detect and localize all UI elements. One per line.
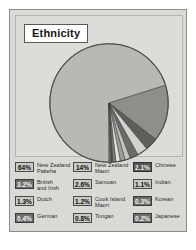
legend-percent-swatch: 0.2% bbox=[133, 213, 152, 223]
legend-item: 3.2%British and Irish bbox=[15, 179, 73, 195]
pie-slice-group bbox=[50, 44, 168, 162]
legend-label: Tongan bbox=[95, 213, 114, 219]
legend-percent-swatch: 1.1% bbox=[133, 179, 152, 189]
legend-label: British and Irish bbox=[37, 179, 59, 191]
legend-label: Korean bbox=[155, 196, 173, 202]
pie-chart bbox=[43, 40, 175, 166]
legend-item: 1.3%Dutch bbox=[15, 196, 73, 212]
pie-chart-svg bbox=[43, 40, 175, 166]
legend-item: 0.3%Korean bbox=[133, 196, 183, 212]
legend-percent-swatch: 0.8% bbox=[73, 213, 92, 223]
legend-label: Samoan bbox=[95, 179, 116, 185]
chart-legend: 64%New Zealand Pakeha14%New Zealand Maor… bbox=[15, 162, 183, 228]
legend-percent-swatch: 0.4% bbox=[15, 213, 34, 223]
legend-label: Cook Island Maori bbox=[95, 196, 125, 208]
legend-label: Japanese bbox=[155, 213, 180, 219]
legend-item: 0.8%Tongan bbox=[73, 213, 133, 229]
legend-percent-swatch: 0.3% bbox=[133, 196, 152, 206]
legend-percent-swatch: 1.3% bbox=[15, 196, 34, 206]
legend-percent-swatch: 64% bbox=[15, 162, 34, 172]
legend-percent-swatch: 3.2% bbox=[15, 179, 34, 189]
legend-item: 1.1%Indian bbox=[133, 179, 183, 195]
chart-screenshot: Ethnicity 64%New Zealand Pakeha14%New Ze… bbox=[0, 0, 196, 250]
legend-label: Dutch bbox=[37, 196, 52, 202]
legend-label: German bbox=[37, 213, 58, 219]
legend-percent-swatch: 2.6% bbox=[73, 179, 92, 189]
legend-item: 0.4%German bbox=[15, 213, 73, 229]
legend-item: 2.6%Samoan bbox=[73, 179, 133, 195]
legend-label: Indian bbox=[155, 179, 171, 185]
chart-title-badge: Ethnicity bbox=[24, 24, 88, 43]
page-title: Ethnicity bbox=[32, 27, 80, 39]
chart-panel: Ethnicity 64%New Zealand Pakeha14%New Ze… bbox=[9, 9, 187, 232]
legend-item: 0.2%Japanese bbox=[133, 213, 183, 229]
legend-item: 1.2%Cook Island Maori bbox=[73, 196, 133, 212]
legend-percent-swatch: 1.2% bbox=[73, 196, 92, 206]
